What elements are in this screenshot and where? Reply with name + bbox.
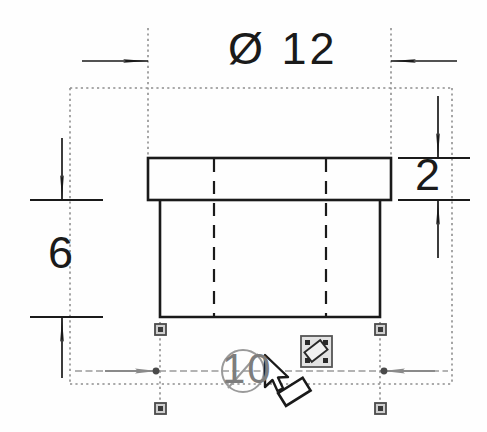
selection-handle-top-left[interactable] bbox=[155, 324, 166, 335]
part-outline-group bbox=[148, 158, 391, 317]
dimension-label-outer-diameter[interactable]: Ø 12 bbox=[228, 26, 338, 71]
body-outline bbox=[160, 200, 380, 317]
selection-handle-bottom-left[interactable] bbox=[155, 403, 166, 414]
selection-handle-bottom-right[interactable] bbox=[375, 403, 386, 414]
cursor-move-dimension-glyph bbox=[278, 378, 311, 406]
cad-drawing-canvas[interactable]: Ø 12 2 6 10 bbox=[0, 0, 487, 432]
dimension-label-overall-height[interactable]: 6 bbox=[48, 230, 73, 275]
flange-rect bbox=[148, 158, 391, 200]
dimension-label-flange-thickness[interactable]: 2 bbox=[415, 152, 440, 197]
dimension-label-body-diameter[interactable]: 10 bbox=[222, 348, 273, 390]
selection-handle-top-right[interactable] bbox=[375, 324, 386, 335]
edit-dimension-badge[interactable] bbox=[301, 336, 332, 367]
